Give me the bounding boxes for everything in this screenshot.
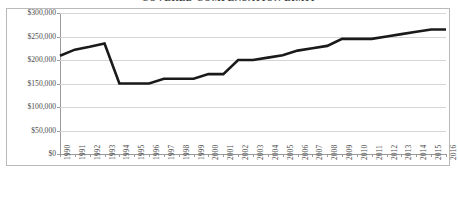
x-axis-tick-label: 2013 — [404, 145, 413, 160]
x-axis-tick — [268, 154, 269, 157]
x-axis-tick-label: 2014 — [419, 145, 428, 160]
x-axis-tick — [179, 154, 180, 157]
x-axis-tick-label: 2008 — [330, 145, 339, 160]
x-axis-tick-label: 1992 — [93, 145, 102, 160]
plot-area — [60, 13, 446, 154]
x-axis-tick — [253, 154, 254, 157]
y-axis-tick-label: $0 — [2, 150, 56, 158]
x-axis-tick-label: 2010 — [360, 145, 369, 160]
x-axis-tick-label: 2005 — [286, 145, 295, 160]
x-axis-tick-label: 2009 — [345, 145, 354, 160]
x-axis-tick — [446, 154, 447, 157]
x-axis-tick — [298, 154, 299, 157]
y-axis-tick-label: $100,000 — [2, 103, 56, 111]
x-axis-tick — [312, 154, 313, 157]
x-axis-tick-label: 2004 — [271, 145, 280, 160]
x-axis-tick-label: 2003 — [256, 145, 265, 160]
x-axis-tick — [223, 154, 224, 157]
x-axis-tick-label: 1999 — [197, 145, 206, 160]
x-axis-tick — [357, 154, 358, 157]
y-axis-tick-label: $250,000 — [2, 33, 56, 41]
x-axis-tick — [105, 154, 106, 157]
series-line-covered-compensation-limit — [60, 29, 446, 83]
x-axis-labels: 1990199119921993199419951996199719981999… — [60, 156, 447, 202]
chart-screenshot: COVERED COMPENSATION LIMIT $0$50,000$100… — [0, 0, 458, 202]
x-axis-tick-label: 2015 — [434, 145, 443, 160]
chart-title: COVERED COMPENSATION LIMIT — [0, 0, 458, 4]
x-axis-tick — [401, 154, 402, 157]
x-axis-tick — [387, 154, 388, 157]
x-axis-tick — [134, 154, 135, 157]
x-axis-tick — [75, 154, 76, 157]
x-axis-tick — [327, 154, 328, 157]
y-axis-tick-label: $150,000 — [2, 80, 56, 88]
x-axis-tick-label: 1996 — [152, 145, 161, 160]
x-axis-tick-label: 2006 — [301, 145, 310, 160]
x-axis-tick-label: 2012 — [390, 145, 399, 160]
y-axis-labels: $0$50,000$100,000$150,000$200,000$250,00… — [0, 0, 56, 202]
x-axis-tick-label: 2011 — [375, 145, 384, 160]
x-axis-tick — [342, 154, 343, 157]
x-axis-tick — [60, 154, 61, 157]
x-axis-tick-label: 2016 — [449, 145, 458, 160]
x-axis-tick — [90, 154, 91, 157]
x-axis-tick-label: 1994 — [122, 145, 131, 160]
x-axis-tick-label: 2002 — [241, 145, 250, 160]
x-axis-tick-label: 1990 — [63, 145, 72, 160]
x-axis-tick-label: 1991 — [78, 145, 87, 160]
x-axis-tick-label: 2007 — [315, 145, 324, 160]
x-axis-tick — [119, 154, 120, 157]
x-axis-tick — [164, 154, 165, 157]
x-axis-tick — [149, 154, 150, 157]
y-axis-tick-label: $200,000 — [2, 56, 56, 64]
x-axis-tick-label: 1998 — [182, 145, 191, 160]
x-axis-tick — [283, 154, 284, 157]
y-axis-tick-label: $50,000 — [2, 127, 56, 135]
x-axis-tick — [194, 154, 195, 157]
x-axis-tick-label: 1993 — [108, 145, 117, 160]
series-line-chart — [60, 13, 446, 154]
x-axis-tick-label: 1997 — [167, 145, 176, 160]
x-axis-tick — [208, 154, 209, 157]
y-axis-tick-label: $300,000 — [2, 9, 56, 17]
x-axis-tick-label: 2001 — [226, 145, 235, 160]
x-axis-tick — [431, 154, 432, 157]
x-axis-tick — [416, 154, 417, 157]
x-axis-tick — [372, 154, 373, 157]
x-axis-tick-label: 2000 — [211, 145, 220, 160]
x-axis-tick-label: 1995 — [137, 145, 146, 160]
x-axis-tick — [238, 154, 239, 157]
